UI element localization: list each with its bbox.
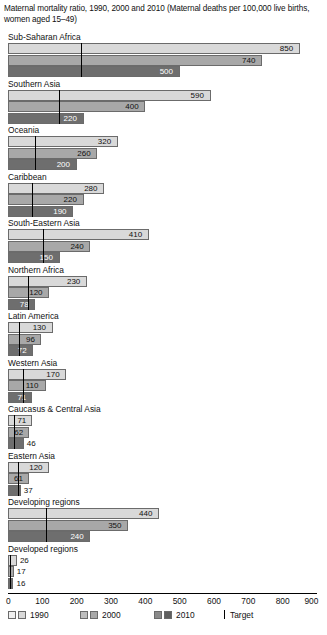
bar-cluster: 1206137 <box>8 462 317 496</box>
legend-swatch-dark-icon <box>18 611 26 619</box>
bar-value-label: 350 <box>108 520 121 531</box>
legend-item-target[interactable]: Target <box>224 609 253 621</box>
legend-swatch-dark-icon <box>164 611 172 619</box>
region-label: Developed regions <box>8 543 317 555</box>
bar-1990 <box>8 90 211 101</box>
bar-row: 78 <box>8 299 317 310</box>
region-group: Caribbean280220190 <box>8 171 317 217</box>
bar-value-label: 280 <box>84 183 97 194</box>
bar-row: 17 <box>8 566 317 577</box>
bar-row: 190 <box>8 206 317 217</box>
bar-row: 740 <box>8 55 317 66</box>
bar-value-label: 240 <box>70 531 83 542</box>
x-axis: 0100200300400500600700800900 <box>8 593 317 607</box>
target-marker <box>19 322 20 356</box>
region-group: Southern Asia590400220 <box>8 78 317 124</box>
bar-row: 240 <box>8 241 317 252</box>
axis-tick-label: 700 <box>241 595 255 607</box>
bar-value-label: 71 <box>17 415 26 426</box>
bar-cluster: 590400220 <box>8 90 317 124</box>
bar-row: 220 <box>8 113 317 124</box>
region-label: Developing regions <box>8 496 317 508</box>
axis-tick-label: 0 <box>6 595 11 607</box>
axis-tick-label: 600 <box>207 595 221 607</box>
bar-value-label: 17 <box>17 566 26 577</box>
region-label: Eastern Asia <box>8 450 317 462</box>
bar-value-label: 96 <box>26 334 35 345</box>
bar-row: 61 <box>8 473 317 484</box>
region-group: Latin America1309672 <box>8 310 317 356</box>
target-marker <box>46 508 47 542</box>
axis-tick-label: 500 <box>173 595 187 607</box>
bar-row: 110 <box>8 380 317 391</box>
bar-value-label: 37 <box>24 485 33 496</box>
chart-legend: 199020002010Target <box>8 609 327 623</box>
bar-row: 26 <box>8 555 317 566</box>
target-line-icon <box>224 610 225 619</box>
axis-tick-label: 300 <box>104 595 118 607</box>
bar-2000 <box>8 334 41 345</box>
bar-value-label: 170 <box>46 369 59 380</box>
region-label: Oceania <box>8 124 317 136</box>
bar-value-label: 220 <box>64 194 77 205</box>
bar-value-label: 320 <box>98 136 111 147</box>
bar-row: 230 <box>8 276 317 287</box>
bar-row: 72 <box>8 345 317 356</box>
region-group: Developed regions261716 <box>8 543 317 589</box>
bar-row: 150 <box>8 252 317 263</box>
bar-row: 260 <box>8 148 317 159</box>
bar-value-label: 400 <box>125 101 138 112</box>
region-label: Northern Africa <box>8 264 317 276</box>
bar-row: 120 <box>8 462 317 473</box>
bar-1990 <box>8 229 149 240</box>
bar-value-label: 500 <box>160 66 173 77</box>
bar-row: 850 <box>8 43 317 54</box>
legend-label: 1990 <box>30 609 49 621</box>
region-label: Sub-Saharan Africa <box>8 31 317 43</box>
bar-value-label: 260 <box>77 148 90 159</box>
bar-cluster: 440350240 <box>8 508 317 542</box>
bar-cluster: 410240150 <box>8 229 317 263</box>
bar-row: 170 <box>8 369 317 380</box>
bar-row: 120 <box>8 287 317 298</box>
axis-tick-label: 900 <box>304 595 318 607</box>
legend-item-2010[interactable]: 2010 <box>154 609 195 621</box>
region-group: Eastern Asia1206137 <box>8 450 317 496</box>
region-group: Western Asia17011071 <box>8 357 317 403</box>
region-group: Sub-Saharan Africa850740500 <box>8 31 317 77</box>
region-label: Western Asia <box>8 357 317 369</box>
maternal-mortality-chart: Maternal mortality ratio, 1990, 2000 and… <box>0 0 327 635</box>
bar-row: 590 <box>8 90 317 101</box>
bar-cluster: 1309672 <box>8 322 317 356</box>
bar-value-label: 850 <box>280 43 293 54</box>
bar-value-label: 110 <box>26 380 39 391</box>
chart-title: Maternal mortality ratio, 1990, 2000 and… <box>0 0 327 25</box>
bar-cluster: 716246 <box>8 415 317 449</box>
bar-1990 <box>8 508 159 519</box>
legend-item-2000[interactable]: 2000 <box>80 609 121 621</box>
bar-row: 200 <box>8 159 317 170</box>
bar-value-label: 220 <box>64 113 77 124</box>
bar-value-label: 440 <box>139 508 152 519</box>
axis-tick-label: 400 <box>138 595 152 607</box>
bar-value-label: 46 <box>27 438 36 449</box>
bar-value-label: 230 <box>67 276 80 287</box>
bar-row: 400 <box>8 101 317 112</box>
bar-row: 71 <box>8 415 317 426</box>
target-marker <box>81 43 82 77</box>
bar-2000 <box>8 55 262 66</box>
bar-cluster: 261716 <box>8 555 317 589</box>
bar-value-label: 200 <box>57 159 70 170</box>
bar-row: 37 <box>8 485 317 496</box>
bar-row: 16 <box>8 578 317 589</box>
bar-row: 350 <box>8 520 317 531</box>
bar-row: 220 <box>8 194 317 205</box>
region-label: Southern Asia <box>8 78 317 90</box>
bar-value-label: 16 <box>16 578 25 589</box>
region-group: Caucasus & Central Asia716246 <box>8 403 317 449</box>
axis-tick-label: 800 <box>276 595 290 607</box>
bar-value-label: 150 <box>40 252 53 263</box>
legend-item-1990[interactable]: 1990 <box>8 609 49 621</box>
target-marker <box>14 415 15 449</box>
bar-2010 <box>8 66 180 77</box>
